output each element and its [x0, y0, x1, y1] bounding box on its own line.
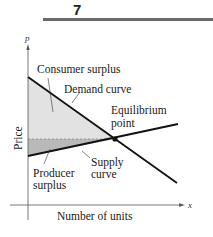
x-axis-arrow-icon	[179, 203, 185, 206]
y-axis-arrow-icon	[26, 44, 29, 50]
x-axis-variable: x	[187, 200, 192, 210]
supply-curve-label-line2: curve	[91, 168, 117, 180]
y-axis-label: Price	[12, 126, 24, 150]
demand-curve-label: Demand curve	[64, 83, 131, 95]
y-axis-variable: p	[24, 33, 30, 43]
supply-curve-leader	[82, 151, 90, 158]
equilibrium-label-line1: Equilibrium	[111, 104, 167, 117]
producer-surplus-label-line1: Producer	[33, 167, 75, 179]
equilibrium-label-line2: point	[111, 117, 135, 130]
x-axis-label: Number of units	[57, 210, 133, 222]
consumer-surplus-label: Consumer surplus	[37, 63, 121, 76]
supply-demand-diagram: p x Price Number of units Consumer surpl…	[0, 0, 213, 237]
equilibrium-point	[112, 136, 117, 141]
producer-surplus-label-line2: surplus	[33, 179, 67, 192]
